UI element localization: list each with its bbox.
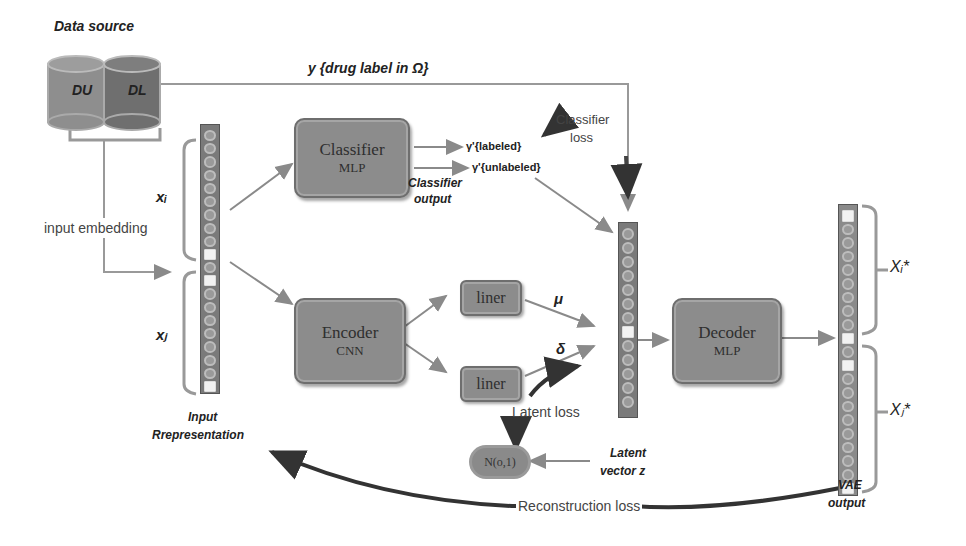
classifier-loss-label-2: loss (570, 130, 593, 145)
input-repr-label-2: Rrepresentation (152, 428, 244, 442)
reconstruction-loss-label: Reconstruction loss (516, 498, 642, 514)
y-label: y {drug label in Ω} (308, 60, 429, 76)
input-embedding-arrow (104, 140, 170, 272)
classifier-output-label-2: output (414, 192, 451, 206)
decoder-block: Decoder MLP (672, 298, 782, 384)
classifier-title: Classifier (319, 140, 384, 160)
liner-mu-block: liner (460, 280, 522, 316)
classifier-block: Classifier MLP (294, 118, 410, 198)
vae-output-label-2: output (828, 496, 865, 510)
normal-distribution-cloud: N(o,1) (472, 448, 528, 476)
encoder-title: Encoder (322, 323, 379, 343)
data-source-title: Data source (54, 18, 134, 34)
dataset-unlabeled-label: DU (72, 82, 92, 98)
decoder-sub: MLP (714, 343, 741, 359)
input-vector (200, 124, 220, 394)
classifier-loss-label-1: Classifier (556, 112, 609, 127)
liner-delta-block: liner (460, 366, 522, 402)
classifier-sub: MLP (339, 160, 366, 176)
xj-label: xⱼ (156, 326, 167, 344)
database-icon (46, 54, 166, 134)
encoder-sub: CNN (336, 343, 363, 359)
mu-label: μ (554, 290, 563, 307)
latent-label-1: Latent (610, 446, 646, 460)
xi-label: xᵢ (156, 188, 167, 205)
input-repr-label-1: Input (188, 410, 217, 424)
vae-output-label-1: VAE (838, 478, 862, 492)
input-embedding-label: input embedding (44, 218, 148, 238)
xi-star-label: Xᵢ* (890, 258, 909, 276)
decoder-title: Decoder (698, 323, 756, 343)
y-labeled-label: γ'{labeled} (466, 140, 521, 152)
xj-star-label: Xⱼ* (890, 400, 910, 419)
encoder-block: Encoder CNN (294, 298, 406, 384)
classifier-output-label-1: Classifier (408, 176, 462, 190)
vae-output-vector (838, 204, 858, 496)
delta-label: δ (556, 340, 565, 357)
latent-vector (618, 222, 638, 418)
latent-loss-label: Latent loss (512, 404, 580, 420)
y-unlabeled-label: γ'{unlabeled} (472, 161, 541, 173)
dataset-labeled-label: DL (128, 82, 147, 98)
latent-label-2: vector z (600, 464, 645, 478)
